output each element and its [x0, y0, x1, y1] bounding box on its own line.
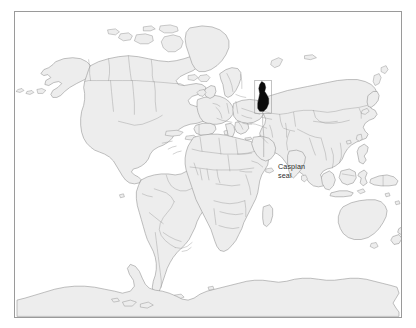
region-antarctica	[17, 264, 399, 316]
land-cuba	[165, 130, 183, 136]
land-new-zealand-north	[398, 226, 401, 235]
land-java	[330, 191, 353, 197]
land-scandinavia	[220, 68, 241, 98]
land-iberia	[194, 123, 216, 135]
land-sakhalin	[373, 74, 381, 86]
land-ellesmere-island	[159, 25, 178, 33]
land-tasmania	[370, 242, 378, 248]
land-philippines	[357, 144, 368, 164]
land-baffin-island	[161, 35, 183, 52]
land-asia-mainland	[258, 80, 377, 187]
land-banks-island	[118, 33, 132, 41]
world-map	[15, 12, 401, 317]
land-arctic-islet-2	[143, 26, 155, 31]
land-aleutian-islet-2	[16, 88, 24, 92]
land-oceania-islet-2	[395, 201, 400, 205]
land-novaya-zemlya	[271, 58, 283, 68]
border-central-america-1	[168, 146, 176, 149]
land-sumatra	[321, 171, 335, 190]
land-kamchatka-islet	[381, 66, 388, 74]
border-uruguay	[182, 247, 191, 251]
land-victoria-island	[134, 34, 153, 44]
land-aleutians	[37, 88, 46, 93]
land-iceland	[188, 75, 198, 81]
land-horn-tip	[266, 168, 274, 173]
border-finland	[241, 75, 242, 89]
land-timor	[357, 189, 365, 194]
land-aleutian-islet-1	[26, 90, 34, 94]
land-south-georgia	[208, 286, 214, 290]
land-antarctica	[17, 264, 399, 316]
land-australia	[338, 200, 387, 240]
figure-root: Caspian seal	[0, 0, 416, 328]
region-asia	[250, 55, 388, 187]
border-central-america-2	[173, 151, 181, 154]
land-hainan	[346, 140, 351, 144]
land-arctic-russia-islet	[305, 55, 317, 60]
land-arctic-islet-1	[108, 29, 120, 35]
border-baltic	[236, 94, 246, 97]
land-borneo	[339, 169, 356, 185]
land-sardinia	[224, 130, 228, 135]
land-oceania-islet-1	[385, 193, 390, 197]
land-new-zealand-south	[391, 235, 401, 245]
land-new-guinea	[370, 175, 398, 186]
map-frame: Caspian seal	[14, 11, 402, 318]
land-madagascar	[263, 205, 273, 227]
land-galapagos	[119, 194, 124, 198]
land-newfoundland	[198, 75, 210, 82]
caspian-sea-range-marker	[258, 82, 269, 112]
land-sulawesi	[358, 170, 367, 186]
land-crete	[245, 137, 252, 140]
